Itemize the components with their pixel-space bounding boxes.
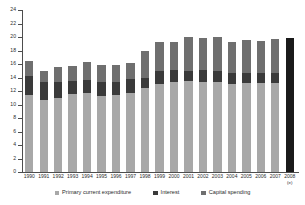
bar-segment[interactable] — [257, 41, 265, 73]
bar-segment[interactable] — [40, 100, 48, 172]
bar-segment[interactable] — [40, 71, 48, 82]
bar-segment[interactable] — [25, 95, 33, 172]
legend-item[interactable]: Interest — [153, 190, 179, 196]
bar-segment[interactable] — [228, 73, 236, 84]
bar-segment[interactable] — [68, 81, 76, 95]
bar-segment[interactable] — [242, 40, 250, 73]
bar-segment[interactable] — [213, 71, 221, 82]
y-tick-label: 4 — [13, 142, 16, 147]
bar-group[interactable] — [97, 65, 105, 172]
bar-group[interactable] — [141, 51, 149, 172]
bar-segment[interactable] — [213, 82, 221, 172]
x-tick-label: 2001 — [181, 174, 195, 180]
bar-segment[interactable] — [155, 84, 163, 172]
x-tick-label: 2008(e) — [283, 174, 297, 185]
bar-group[interactable] — [126, 63, 134, 172]
x-tick-label: 2000 — [167, 174, 181, 180]
legend-label: Primary current expenditure — [62, 190, 131, 196]
bar-group[interactable] — [271, 39, 279, 172]
y-tick-label: 12 — [10, 88, 16, 93]
bar-segment[interactable] — [242, 73, 250, 83]
bar-group[interactable] — [228, 42, 236, 172]
bar-group[interactable] — [213, 37, 221, 172]
bar-segment[interactable] — [155, 71, 163, 84]
chart-legend: Primary current expenditureInterestCapit… — [0, 190, 305, 196]
x-tick-label: 1997 — [123, 174, 137, 180]
bar-segment[interactable] — [126, 79, 134, 93]
legend-label: Interest — [161, 190, 180, 196]
bar-group[interactable] — [25, 61, 33, 172]
bar-group[interactable] — [170, 42, 178, 172]
bar-segment[interactable] — [40, 82, 48, 100]
bar-segment[interactable] — [126, 63, 134, 79]
bar-segment[interactable] — [271, 39, 279, 73]
bar-group[interactable] — [242, 40, 250, 172]
x-tick-label: 1998 — [138, 174, 152, 180]
bar-group[interactable] — [184, 37, 192, 172]
bar-segment[interactable] — [184, 81, 192, 172]
bar-segment[interactable] — [184, 71, 192, 81]
bar-group[interactable] — [286, 38, 294, 172]
bar-segment[interactable] — [97, 65, 105, 82]
bar-segment[interactable] — [286, 38, 294, 172]
x-tick-label: 1994 — [80, 174, 94, 180]
x-tick-label: 1990 — [22, 174, 36, 180]
plot-area: 024681012141618202224 — [22, 10, 297, 172]
bar-group[interactable] — [40, 71, 48, 172]
bar-segment[interactable] — [242, 83, 250, 172]
bar-group[interactable] — [68, 66, 76, 172]
bar-segment[interactable] — [112, 82, 120, 96]
y-tick-label: 10 — [10, 102, 16, 107]
bar-segment[interactable] — [141, 88, 149, 172]
x-tick-label: 2004 — [225, 174, 239, 180]
bar-segment[interactable] — [54, 82, 62, 98]
bar-segment[interactable] — [257, 83, 265, 172]
bar-segment[interactable] — [141, 51, 149, 78]
bar-segment[interactable] — [184, 37, 192, 71]
bar-group[interactable] — [155, 42, 163, 172]
bar-segment[interactable] — [97, 82, 105, 97]
bar-segment[interactable] — [68, 94, 76, 172]
bar-segment[interactable] — [271, 83, 279, 172]
bar-segment[interactable] — [141, 78, 149, 89]
bar-segment[interactable] — [83, 62, 91, 80]
y-tick-label: 14 — [10, 75, 16, 80]
bar-segment[interactable] — [83, 80, 91, 94]
bar-segment[interactable] — [170, 42, 178, 70]
legend-swatch-icon — [201, 191, 206, 196]
y-tick-label: 0 — [13, 169, 16, 174]
y-tick-label: 18 — [10, 48, 16, 53]
bar-segment[interactable] — [68, 66, 76, 81]
legend-item[interactable]: Primary current expenditure — [55, 190, 132, 196]
bar-segment[interactable] — [170, 70, 178, 82]
bar-segment[interactable] — [228, 42, 236, 73]
bar-segment[interactable] — [155, 42, 163, 71]
bar-segment[interactable] — [25, 76, 33, 95]
bar-segment[interactable] — [199, 38, 207, 70]
y-tick-mark — [18, 172, 22, 173]
bar-segment[interactable] — [112, 95, 120, 172]
bar-segment[interactable] — [83, 93, 91, 172]
bar-segment[interactable] — [257, 73, 265, 82]
bar-segment[interactable] — [199, 82, 207, 172]
legend-swatch-icon — [153, 191, 158, 196]
bar-segment[interactable] — [199, 70, 207, 82]
bar-group[interactable] — [112, 65, 120, 172]
bar-segment[interactable] — [271, 73, 279, 82]
bar-group[interactable] — [83, 62, 91, 172]
x-tick-label: 1999 — [152, 174, 166, 180]
bar-segment[interactable] — [213, 37, 221, 71]
bar-group[interactable] — [54, 67, 62, 172]
bar-segment[interactable] — [126, 93, 134, 172]
bar-segment[interactable] — [25, 61, 33, 77]
bar-segment[interactable] — [112, 65, 120, 82]
bar-segment[interactable] — [54, 67, 62, 82]
legend-item[interactable]: Capital spending — [201, 190, 250, 196]
bar-segment[interactable] — [97, 96, 105, 172]
bar-group[interactable] — [199, 38, 207, 172]
bar-segment[interactable] — [54, 98, 62, 172]
bar-group[interactable] — [257, 41, 265, 172]
y-tick-label: 22 — [10, 21, 16, 26]
bar-segment[interactable] — [228, 84, 236, 172]
bar-segment[interactable] — [170, 82, 178, 172]
